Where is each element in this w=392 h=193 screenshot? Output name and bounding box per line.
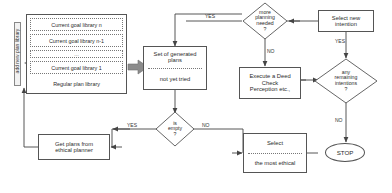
plans-top-text: Set of generated plans — [144, 47, 206, 68]
edge-label-no-is-empty: NO — [202, 122, 210, 128]
is-empty-line3: ? — [174, 132, 177, 138]
ethical-planner-line2: ethical planner — [55, 147, 93, 153]
edge-label-yes-more-planning: YES — [205, 13, 215, 19]
any-remaining-intentions-decision: any remaining intentions ? — [314, 58, 378, 104]
is-empty-decision: is empty ? — [155, 111, 195, 147]
add-new-plan-library-label: add new plan library — [14, 22, 20, 80]
any-remaining-line4: ? — [345, 87, 348, 93]
execute-line3: Perception etc., — [250, 86, 290, 92]
more-planning-line4: ? — [264, 27, 267, 33]
goal-library-ellipsis: ... — [30, 50, 123, 58]
goal-library-item-1: Current goal library 1 — [30, 61, 123, 74]
edge-label-no-more-planning: NO — [267, 48, 275, 54]
stop-node: STOP — [325, 143, 365, 162]
select-bottom-text: the most ethical — [244, 154, 306, 173]
select-new-intention-node: Select new intention — [318, 10, 374, 32]
edge-label-no-any-remaining: NO — [335, 117, 343, 123]
goal-library-stack: Current goal library n Current goal libr… — [26, 14, 127, 94]
select-top-text: Select — [244, 134, 306, 153]
execute-deed-node: Execute a Deed Check Perception etc., — [239, 67, 301, 99]
goal-library-item-n-minus-1: Current goal library n-1 — [30, 34, 123, 47]
plans-not-yet-tried: not yet tried — [144, 69, 206, 90]
goal-library-item-n: Current goal library n — [30, 18, 123, 31]
select-new-intention-line2: intention — [335, 21, 357, 27]
flowchart-canvas: add new plan library Current goal librar… — [0, 0, 392, 193]
set-of-generated-plans-node: Set of generated plans not yet tried — [143, 46, 207, 90]
ethical-planner-node: Get plans from ethical planner — [38, 134, 110, 160]
edge-label-yes-is-empty: YES — [127, 122, 137, 128]
regular-plan-library-item: Regular plan library — [30, 77, 123, 90]
select-most-ethical-node: Select the most ethical — [243, 133, 307, 173]
more-planning-needed-decision: more planning needed ? — [242, 2, 288, 40]
plans-line2: plans — [154, 57, 197, 63]
edge-label-yes-any-remaining: YES — [335, 38, 345, 44]
